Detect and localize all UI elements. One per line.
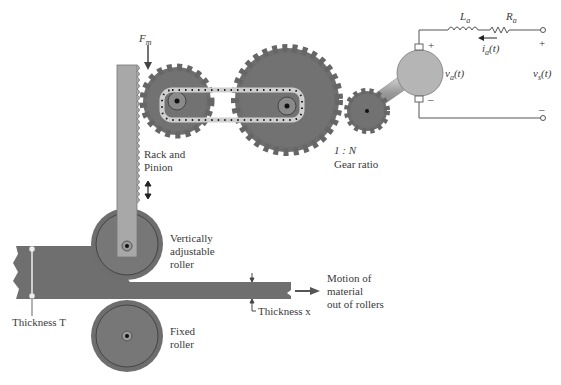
gear-ratio-label: Gear ratio — [334, 158, 378, 171]
motor-plus-sign: + — [428, 39, 434, 52]
inductor — [448, 27, 478, 30]
motion-arrow — [295, 287, 320, 295]
current-arrow — [478, 35, 497, 41]
source-voltage-label: vs(t) — [533, 67, 551, 84]
fixed-roller — [91, 300, 163, 372]
rack-pinion-label: Rack andPinion — [144, 148, 185, 174]
diagram-graphics — [0, 0, 561, 385]
thickness-x-label: Thickness x — [258, 305, 311, 318]
resistor-label: Ra — [506, 10, 517, 27]
adjustable-roller-label: Verticallyadjustableroller — [170, 232, 215, 271]
force-label: Fm — [139, 32, 152, 49]
pinion-gear — [143, 67, 211, 135]
motion-label: Motion ofmaterialout of rollers — [327, 272, 384, 311]
rack — [117, 65, 140, 257]
current-label: ia(t) — [482, 42, 499, 59]
small-gear — [347, 91, 387, 131]
thickness-t-label: Thickness T — [12, 316, 66, 329]
source-plus-sign: + — [539, 37, 545, 50]
resistor — [478, 27, 541, 33]
gear-ratio-value: 1 : N — [334, 144, 356, 157]
inductor-label: La — [460, 10, 470, 27]
motor-minus-sign: – — [428, 93, 434, 106]
motor-voltage-label: va(t) — [445, 67, 464, 84]
large-gear — [235, 48, 339, 152]
rolling-mill-diagram: Fm Rack andPinion 1 : N Gear ratio Verti… — [0, 0, 561, 385]
source-minus-sign: – — [539, 103, 545, 116]
fixed-roller-label: Fixedroller — [170, 325, 195, 351]
vertical-motion-arrow — [145, 181, 151, 199]
motor — [397, 44, 443, 102]
